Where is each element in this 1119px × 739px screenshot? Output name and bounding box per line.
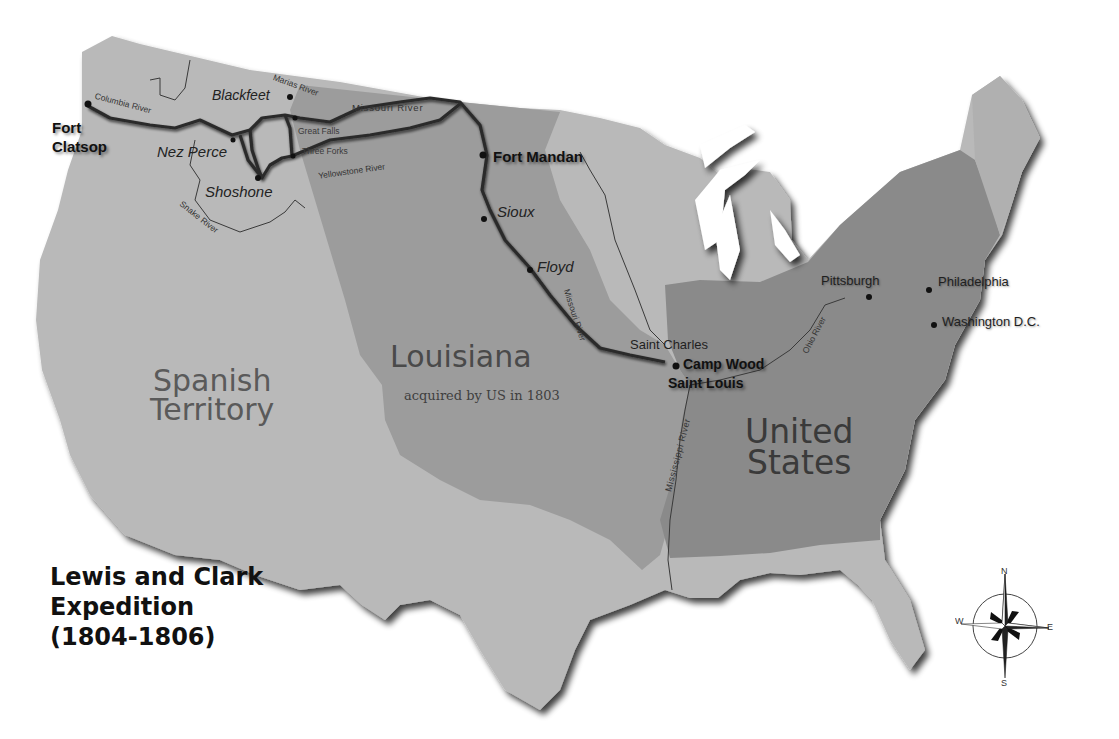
label-washington-dc: Washington D.C. xyxy=(942,314,1040,329)
label-fort-mandan: Fort Mandan xyxy=(493,148,583,165)
label-camp-wood: Camp Wood xyxy=(683,356,764,372)
label-saint-louis: Saint Louis xyxy=(668,375,743,391)
marker-sioux xyxy=(481,216,487,222)
compass-n: N xyxy=(1001,566,1008,576)
marker-fort-mandan xyxy=(480,152,487,159)
marker-shoshone xyxy=(255,175,261,181)
marker-fort-clatsop xyxy=(85,101,92,108)
marker-great-falls xyxy=(293,116,298,121)
label-shoshone: Shoshone xyxy=(205,183,273,200)
label-louisiana-note: acquired by US in 1803 xyxy=(404,388,560,403)
marker-washington-dc xyxy=(931,322,937,328)
label-missouri-river-north: Missouri River xyxy=(352,102,423,113)
compass-e: E xyxy=(1047,622,1053,632)
label-united-states: United States xyxy=(745,416,853,479)
marker-floyd xyxy=(527,267,533,273)
compass-w: W xyxy=(955,616,964,626)
label-sioux: Sioux xyxy=(497,203,535,220)
label-spanish-territory: Spanish Territory xyxy=(150,367,274,424)
label-nez-perce: Nez Perce xyxy=(157,143,227,160)
compass-s: S xyxy=(1001,678,1007,686)
label-philadelphia: Philadelphia xyxy=(938,274,1009,289)
marker-pittsburgh xyxy=(866,294,872,300)
compass-rose-icon: N S W E xyxy=(955,566,1055,686)
label-louisiana: Louisiana xyxy=(390,343,532,372)
label-floyd: Floyd xyxy=(537,258,574,275)
marker-nez-perce xyxy=(231,138,236,143)
marker-blackfeet xyxy=(287,94,293,100)
marker-three-forks xyxy=(291,154,296,159)
marker-philadelphia xyxy=(926,287,932,293)
label-saint-charles: Saint Charles xyxy=(630,337,708,352)
label-great-falls: Great Falls xyxy=(298,126,340,136)
map-title: Lewis and Clark Expedition (1804-1806) xyxy=(50,562,263,652)
label-pittsburgh: Pittsburgh xyxy=(821,273,880,288)
label-three-forks: Three Forks xyxy=(302,146,348,156)
label-blackfeet: Blackfeet xyxy=(212,87,270,103)
label-fort-clatsop: Fort Clatsop xyxy=(52,118,107,156)
marker-camp-wood xyxy=(673,363,680,370)
